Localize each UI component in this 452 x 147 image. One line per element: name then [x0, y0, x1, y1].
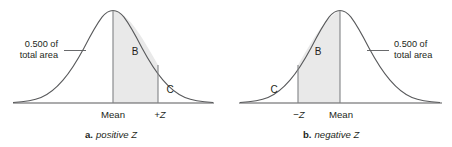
region-label-b-positive: B	[132, 46, 139, 57]
axis-label-z-negative: −Z	[293, 109, 306, 120]
axis-label-mean-positive: Mean	[101, 109, 125, 120]
panel-negative-z: B C 0.500 of total area −Z Mean b.negati…	[239, 11, 442, 141]
annotation-line1-positive: 0.500 of	[25, 39, 59, 49]
panel-positive-z: B C 0.500 of total area Mean +Z a.positi…	[13, 11, 214, 141]
annotation-line2-positive: total area	[20, 50, 59, 60]
region-label-b-negative: B	[315, 46, 322, 57]
region-label-c-negative: C	[270, 84, 277, 95]
annotation-line2-negative: total area	[394, 50, 433, 60]
annotation-line1-negative: 0.500 of	[394, 39, 428, 49]
caption-letter-negative: b.	[303, 129, 312, 140]
caption-letter-positive: a.	[85, 129, 93, 140]
figure-canvas: B C 0.500 of total area Mean +Z a.positi…	[0, 0, 452, 147]
normal-distribution-figure: B C 0.500 of total area Mean +Z a.positi…	[0, 0, 452, 147]
caption-text-negative: negative Z	[315, 129, 361, 140]
caption-text-positive: positive Z	[95, 129, 138, 140]
caption-positive: a.positive Z	[85, 129, 138, 140]
region-label-c-positive: C	[166, 84, 173, 95]
axis-label-mean-negative: Mean	[329, 109, 353, 120]
caption-negative: b.negative Z	[303, 129, 360, 140]
axis-label-z-positive: +Z	[154, 109, 167, 120]
